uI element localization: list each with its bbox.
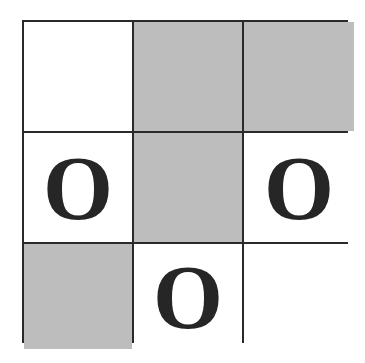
cell-r1-c2[interactable]: O (244, 133, 354, 242)
cell-r0-c0[interactable] (24, 22, 132, 131)
cell-r2-c0[interactable] (24, 244, 132, 349)
o-mark: O (43, 144, 113, 234)
o-mark: O (153, 253, 223, 343)
cell-r1-c0[interactable]: O (24, 133, 132, 242)
cell-r2-c2[interactable] (244, 244, 354, 349)
game-board: O O O (22, 20, 348, 343)
cell-r0-c1[interactable] (134, 22, 242, 131)
cell-r1-c1[interactable] (134, 133, 242, 242)
o-mark: O (264, 144, 334, 234)
cell-r0-c2[interactable] (244, 22, 354, 131)
cell-r2-c1[interactable]: O (134, 244, 242, 349)
